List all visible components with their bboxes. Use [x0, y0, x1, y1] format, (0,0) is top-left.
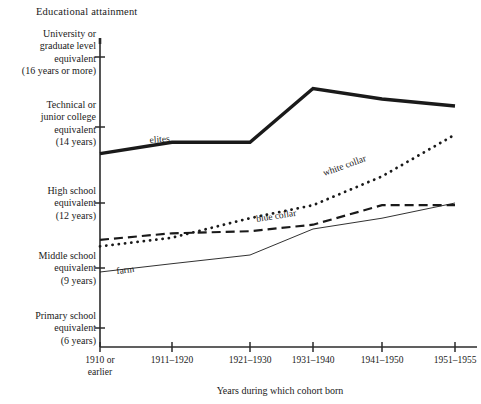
x-tick-label-1911-1920: 1911–1920 [132, 355, 212, 367]
x-tick-label-1910-or-earlier: 1910 or earlier [60, 355, 140, 378]
series-label-elites: elites [149, 134, 170, 145]
data-series-layer [100, 89, 455, 273]
chart-figure: Educational attainment University or gra… [0, 0, 481, 404]
x-axis-title: Years during which cohort born [150, 385, 410, 396]
x-tick-label-1931-1940: 1931–1940 [273, 355, 353, 367]
x-tick-label-1941-1950: 1941–1950 [342, 355, 422, 367]
series-line-white-collar [100, 135, 455, 247]
plot-area [0, 0, 481, 404]
x-tick-label-1951-1955: 1951–1955 [415, 355, 481, 367]
